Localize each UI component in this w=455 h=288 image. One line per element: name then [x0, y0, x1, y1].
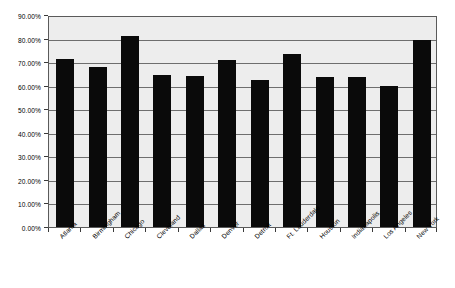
- x-tick-mark: [145, 228, 146, 232]
- bar: [153, 75, 171, 227]
- y-tick-label: 50.00%: [18, 107, 41, 114]
- gridline: [49, 87, 436, 88]
- bar: [316, 77, 334, 227]
- bar: [56, 59, 74, 227]
- gridline: [49, 40, 436, 41]
- gridline: [49, 204, 436, 205]
- x-tick-mark: [307, 228, 308, 232]
- y-tick-label: 60.00%: [18, 83, 41, 90]
- y-tick-label: 40.00%: [18, 130, 41, 137]
- bar: [218, 60, 236, 227]
- x-tick-mark: [436, 228, 437, 232]
- x-tick-mark: [210, 228, 211, 232]
- bar: [380, 86, 398, 227]
- x-tick-mark: [275, 228, 276, 232]
- y-tick-label: 90.00%: [18, 13, 41, 20]
- x-tick-mark: [80, 228, 81, 232]
- bar: [413, 40, 431, 227]
- gridline: [49, 63, 436, 64]
- gridline: [49, 157, 436, 158]
- gridline: [49, 110, 436, 111]
- x-axis: [48, 228, 437, 232]
- x-tick-mark: [372, 228, 373, 232]
- bar: [283, 54, 301, 227]
- x-tick-mark: [48, 228, 49, 232]
- bar: [186, 76, 204, 227]
- x-tick-mark: [340, 228, 341, 232]
- y-tick-label: 20.00%: [18, 177, 41, 184]
- bar: [251, 80, 269, 227]
- bar-chart: 0.00%10.00%20.00%30.00%40.00%50.00%60.00…: [0, 0, 455, 288]
- y-tick-label: 30.00%: [18, 154, 41, 161]
- y-axis: 0.00%10.00%20.00%30.00%40.00%50.00%60.00…: [0, 0, 48, 240]
- plot-area: [48, 16, 437, 228]
- bar: [348, 77, 366, 227]
- bar: [121, 36, 139, 227]
- y-tick-label: 10.00%: [18, 201, 41, 208]
- bar: [89, 67, 107, 227]
- gridline: [49, 134, 436, 135]
- y-tick-label: 70.00%: [18, 60, 41, 67]
- x-tick-mark: [243, 228, 244, 232]
- gridline: [49, 181, 436, 182]
- x-tick-mark: [178, 228, 179, 232]
- x-tick-mark: [113, 228, 114, 232]
- y-tick-label: 0.00%: [22, 225, 41, 232]
- x-tick-mark: [405, 228, 406, 232]
- y-tick-label: 80.00%: [18, 36, 41, 43]
